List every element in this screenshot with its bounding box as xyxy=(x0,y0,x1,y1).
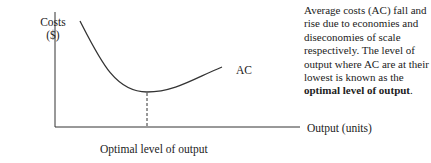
note-text: Average costs (AC) fall and rise due to … xyxy=(304,4,429,83)
ac-curve xyxy=(80,21,222,92)
y-axis-label-line2: ($) xyxy=(36,29,70,42)
note-bold-term: optimal level of output xyxy=(304,84,410,96)
y-axis-label-line1: Costs xyxy=(36,16,70,29)
x-axis-label: Output (units) xyxy=(307,122,372,135)
explanation-note: Average costs (AC) fall and rise due to … xyxy=(304,4,429,98)
optimal-output-caption: Optimal level of output xyxy=(100,143,208,156)
note-end: . xyxy=(410,84,413,96)
y-axis-label: Costs ($) xyxy=(36,16,70,42)
ac-curve-label: AC xyxy=(236,64,252,77)
